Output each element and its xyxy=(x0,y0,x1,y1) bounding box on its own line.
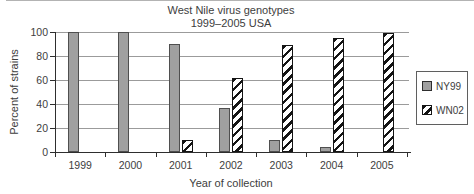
x-axis-tick xyxy=(206,152,207,157)
figure-canvas: West Nile virus genotypes 1999–2005 USA … xyxy=(0,0,474,194)
legend-label-ny99: NY99 xyxy=(436,81,461,92)
y-tick-label: 40 xyxy=(18,98,48,110)
bar-wn02-2005 xyxy=(383,33,394,152)
x-axis-tick xyxy=(407,152,408,157)
ny99-solid-swatch-icon xyxy=(422,81,432,91)
x-axis-tick xyxy=(156,152,157,157)
bar-wn02-2004 xyxy=(333,38,344,152)
legend: NY99 WN02 xyxy=(416,71,468,125)
bar-wn02-2002 xyxy=(232,78,243,152)
bar-wn02-2001 xyxy=(182,140,193,152)
legend-item-wn02: WN02 xyxy=(422,105,467,116)
bar-ny99-2001 xyxy=(169,44,180,152)
bar-wn02-2003 xyxy=(282,45,293,152)
x-tick-label: 2000 xyxy=(108,159,152,171)
y-axis-line xyxy=(55,32,56,153)
x-axis-tick xyxy=(256,152,257,157)
x-axis-tick xyxy=(357,152,358,157)
bar-ny99-1999 xyxy=(68,32,79,152)
wn02-hatch-swatch-icon xyxy=(422,105,432,115)
x-tick-label: 1999 xyxy=(58,159,102,171)
x-tick-label: 2004 xyxy=(310,159,354,171)
x-axis-tick xyxy=(105,152,106,157)
x-tick-label: 2005 xyxy=(360,159,404,171)
legend-item-ny99: NY99 xyxy=(422,81,467,92)
x-tick-label: 2003 xyxy=(259,159,303,171)
plot-area: 0204060801001999200020012002200320042005 xyxy=(0,0,474,194)
y-tick-label: 80 xyxy=(18,50,48,62)
legend-label-wn02: WN02 xyxy=(436,105,464,116)
bar-ny99-2003 xyxy=(269,140,280,152)
x-axis-tick xyxy=(306,152,307,157)
x-axis-title: Year of collection xyxy=(55,177,407,189)
x-tick-label: 2002 xyxy=(209,159,253,171)
bar-ny99-2000 xyxy=(118,32,129,152)
x-axis-tick xyxy=(55,152,56,157)
bar-ny99-2004 xyxy=(320,147,331,152)
y-tick-label: 20 xyxy=(18,122,48,134)
gridline xyxy=(55,32,409,33)
gridline xyxy=(55,56,409,57)
y-tick-label: 100 xyxy=(18,26,48,38)
y-tick-label: 60 xyxy=(18,74,48,86)
x-tick-label: 2001 xyxy=(159,159,203,171)
y-tick-label: 0 xyxy=(18,146,48,158)
bar-ny99-2002 xyxy=(219,108,230,152)
